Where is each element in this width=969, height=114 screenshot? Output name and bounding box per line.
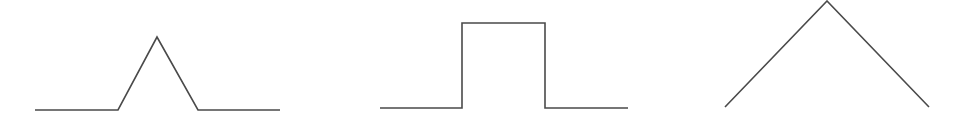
waveform-diagram (0, 0, 969, 114)
rectangular-pulse-shape (380, 23, 628, 108)
triangular-pulse-shape (35, 37, 280, 110)
inverted-v-peak-shape (725, 1, 929, 107)
